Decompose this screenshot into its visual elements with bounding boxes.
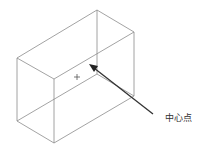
center-point-label: 中心点 [165, 111, 192, 124]
edge [17, 10, 97, 58]
hidden-edge [17, 74, 97, 121]
box-wireframe [17, 10, 134, 143]
pointer-arrow-icon [89, 64, 153, 114]
center-plus-icon [74, 74, 80, 80]
edge [17, 58, 54, 79]
box-diagram [0, 0, 207, 153]
edge [17, 121, 54, 143]
edge [97, 10, 134, 32]
edge [54, 96, 134, 143]
